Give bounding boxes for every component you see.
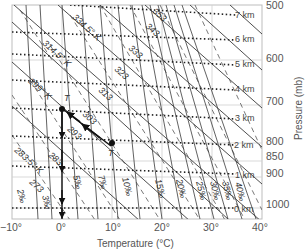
x-axis-ticks: −10° 0° 10° 20° 30° 40°: [0, 221, 268, 233]
svg-text:30°: 30°: [203, 221, 219, 233]
svg-text:900: 900: [266, 167, 284, 179]
svg-text:1000: 1000: [266, 198, 290, 210]
y-axis-title: Pressure (mb): [293, 77, 304, 140]
skew-t-diagram: 283.5° K 299° K 314.5° K 334.5° K 273 28…: [0, 0, 307, 252]
point-T-700mb: [59, 106, 65, 112]
svg-text:−10°: −10°: [0, 221, 22, 233]
x-axis-title: Temperature (°C): [97, 238, 174, 249]
svg-text:1 km: 1 km: [235, 170, 255, 180]
svg-text:850: 850: [266, 150, 284, 162]
svg-text:2 km: 2 km: [234, 140, 254, 150]
svg-text:20°: 20°: [154, 221, 170, 233]
svg-text:5 km: 5 km: [235, 59, 255, 69]
svg-text:40°: 40°: [252, 221, 268, 233]
svg-text:7 km: 7 km: [235, 10, 255, 20]
svg-text:10°: 10°: [105, 221, 121, 233]
y-axis-ticks: 500 600 700 800 850 900 1000: [266, 0, 290, 210]
svg-text:0 km: 0 km: [234, 204, 254, 214]
svg-text:3 km: 3 km: [235, 113, 255, 123]
svg-text:6 km: 6 km: [235, 34, 255, 44]
svg-text:600: 600: [266, 52, 284, 64]
svg-text:800: 800: [266, 135, 284, 147]
svg-text:500: 500: [266, 0, 284, 11]
svg-text:700: 700: [266, 95, 284, 107]
svg-text:0°: 0°: [56, 221, 66, 233]
point-T-800mb: [109, 140, 115, 146]
svg-text:4 km: 4 km: [235, 84, 255, 94]
